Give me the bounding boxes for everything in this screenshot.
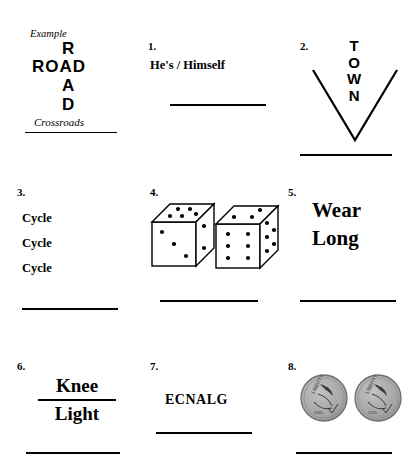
puzzle-6-numerator: Knee	[38, 374, 116, 398]
puzzle-5-answer-blank[interactable]	[300, 300, 396, 302]
example-crossword-road: R ROAD A D	[18, 40, 128, 115]
coin-left-graphic: LIBERTY 1945	[301, 373, 347, 421]
puzzle-2-word-vertical: T O W N	[347, 38, 361, 104]
puzzle-6-fraction-bar	[38, 399, 116, 401]
svg-text:1945: 1945	[368, 410, 378, 415]
puzzle-7-answer-blank[interactable]	[156, 432, 252, 434]
svg-text:1945: 1945	[314, 410, 324, 415]
puzzle-number-7: 7.	[150, 360, 158, 372]
puzzle-6-denominator: Light	[38, 402, 116, 426]
example-answer: Crossroads	[34, 116, 84, 128]
puzzle-2-chevron-town: T O W N	[305, 36, 415, 146]
puzzle-number-6: 6.	[17, 360, 25, 372]
example-vertical-letter-a: A	[62, 77, 74, 94]
town-letter-o: O	[347, 55, 361, 72]
puzzle-5-line-1: Wear	[312, 196, 361, 224]
puzzle-3-clue: Cycle Cycle Cycle	[22, 206, 52, 281]
puzzle-number-5: 5.	[288, 186, 296, 198]
example-vertical-letter-d: D	[62, 96, 74, 113]
town-letter-w: W	[347, 71, 361, 88]
coin-right-graphic: LIBERTY 1945	[355, 373, 401, 421]
example-label: Example	[30, 28, 67, 39]
town-letter-n: N	[347, 88, 361, 105]
puzzle-6-clue: Knee Light	[38, 374, 116, 426]
example-answer-rule	[25, 132, 117, 133]
puzzle-4-answer-blank[interactable]	[160, 300, 258, 302]
puzzle-1-clue: He's / Himself	[150, 58, 225, 73]
puzzle-1-answer-blank[interactable]	[170, 104, 266, 106]
puzzle-3-line-3: Cycle	[22, 256, 52, 281]
puzzle-number-3: 3.	[17, 186, 25, 198]
puzzle-3-line-1: Cycle	[22, 206, 52, 231]
puzzle-3-line-2: Cycle	[22, 231, 52, 256]
puzzle-number-8: 8.	[288, 360, 296, 372]
example-horizontal-word: ROAD	[32, 58, 86, 75]
puzzle-8-coins-illustration: LIBERTY 1945 LIBERTY 1945	[300, 372, 410, 424]
dice-pair-icon	[148, 196, 288, 276]
puzzle-2-answer-blank[interactable]	[300, 154, 392, 156]
puzzle-number-1: 1.	[148, 40, 156, 52]
puzzle-3-answer-blank[interactable]	[22, 308, 118, 310]
puzzle-7-clue: ECNALG	[165, 392, 228, 408]
town-letter-t: T	[347, 38, 361, 55]
puzzle-5-clue: Wear Long	[312, 196, 361, 252]
coin-pair-icon: LIBERTY 1945 LIBERTY 1945	[300, 372, 410, 424]
puzzle-4-dice-illustration	[148, 196, 288, 276]
puzzle-5-line-2: Long	[312, 224, 361, 252]
puzzle-6-answer-blank[interactable]	[26, 452, 120, 454]
example-vertical-letter-r: R	[62, 40, 74, 57]
puzzle-8-answer-blank[interactable]	[296, 452, 392, 454]
